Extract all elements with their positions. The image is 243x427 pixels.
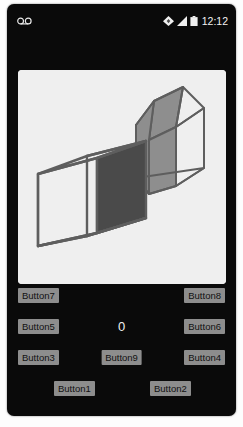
voicemail-icon — [17, 17, 32, 25]
3d-shape-canvas[interactable] — [18, 70, 226, 284]
status-clock: 12:12 — [202, 13, 228, 29]
button-3[interactable]: Button3 — [18, 350, 59, 365]
button-2[interactable]: Button2 — [150, 381, 191, 396]
battery-icon — [190, 16, 198, 26]
shapes-svg — [18, 70, 226, 284]
status-bar-right-cluster: 12:12 — [163, 13, 228, 29]
button-row-4: Button1 Button2 — [7, 381, 236, 396]
counter-display: 0 — [118, 319, 125, 334]
button-9[interactable]: Button9 — [101, 350, 142, 365]
button-8[interactable]: Button8 — [184, 288, 225, 303]
button-4[interactable]: Button4 — [184, 350, 225, 365]
button-1[interactable]: Button1 — [54, 381, 95, 396]
button-7[interactable]: Button7 — [18, 288, 59, 303]
button-row-2: Button5 0 Button6 — [7, 319, 236, 334]
phone-device: 12:12 — [7, 4, 236, 416]
status-bar: 12:12 — [7, 13, 236, 29]
button-5[interactable]: Button5 — [18, 319, 59, 334]
signal-icon — [177, 16, 187, 26]
wifi-icon — [163, 16, 174, 26]
page-root: 12:12 — [0, 0, 243, 427]
button-grid: Button7 Button8 Button5 0 Button6 Button… — [7, 284, 236, 416]
button-6[interactable]: Button6 — [184, 319, 225, 334]
button-row-1: Button7 Button8 — [7, 288, 236, 303]
button-row-3: Button3 Button9 Button4 — [7, 350, 236, 365]
